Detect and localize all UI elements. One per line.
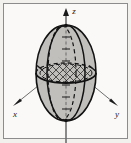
z-axis-label: z <box>71 6 76 16</box>
figure-container: x y z <box>0 0 131 143</box>
y-axis-label: y <box>114 109 119 119</box>
south-pole-point <box>64 119 68 123</box>
ellipsoid-figure: x y z <box>0 0 131 143</box>
north-pole-point <box>64 24 68 28</box>
x-axis-label: x <box>12 109 17 119</box>
